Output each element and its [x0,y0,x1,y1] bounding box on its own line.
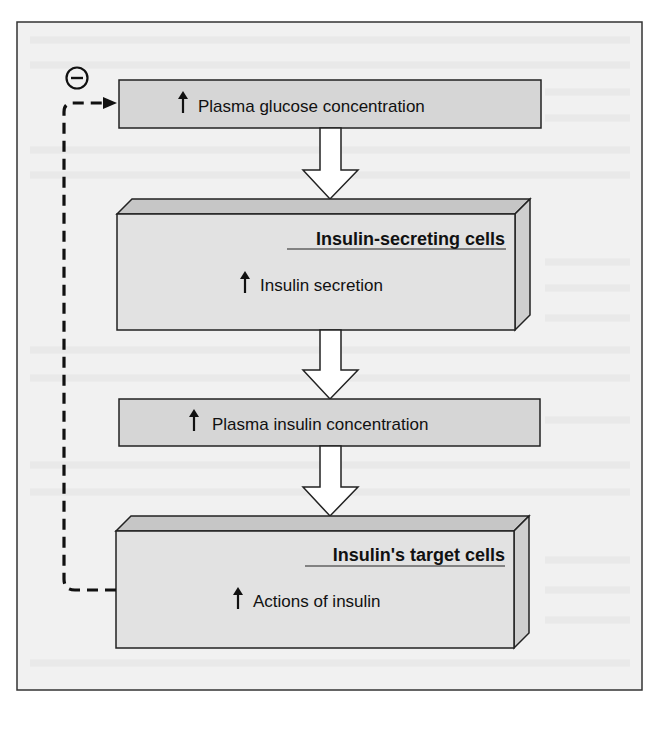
node-label: Insulin secretion [260,276,383,295]
node-label: Actions of insulin [253,592,381,611]
node-label: Plasma glucose concentration [198,97,425,116]
node-plasma-insulin: Plasma insulin concentration [119,399,540,446]
node-insulin-target-cells: Insulin's target cells Actions of insuli… [116,516,529,648]
node-insulin-secreting-cells: Insulin-secreting cells Insulin secretio… [117,199,530,330]
insulin-feedback-diagram: Plasma glucose concentration Insulin-sec… [0,0,659,730]
node-plasma-glucose: Plasma glucose concentration [119,80,541,128]
node-title: Insulin-secreting cells [316,229,505,249]
node-title: Insulin's target cells [333,545,505,565]
node-label: Plasma insulin concentration [212,415,428,434]
